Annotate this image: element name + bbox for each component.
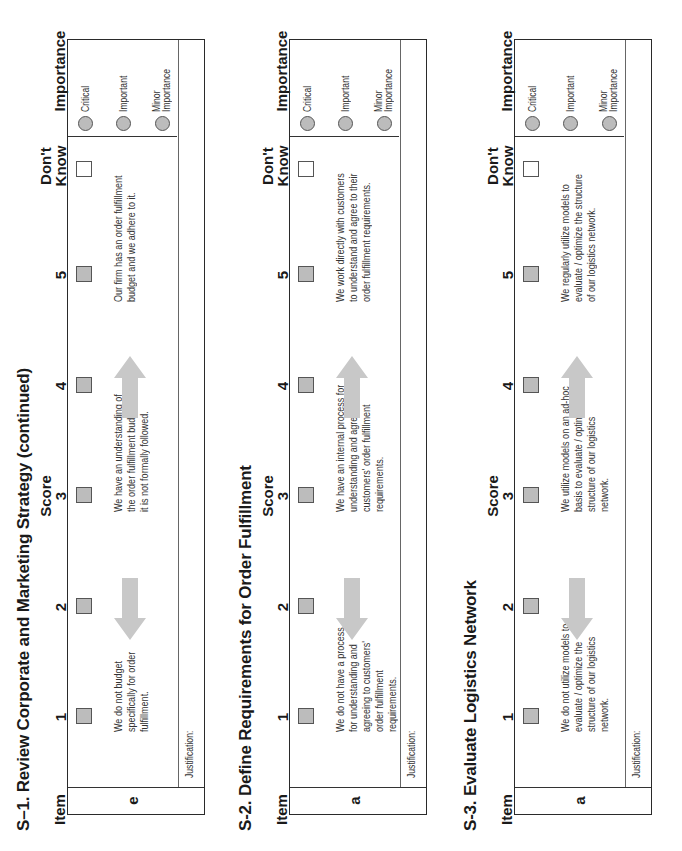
description-line: for understanding and (347, 627, 360, 732)
score-5-description: We regularly utilize models toevaluate /… (559, 174, 598, 302)
description-line: budget and we adhere to it. (125, 176, 138, 302)
description-line: specifically for order (125, 652, 138, 732)
dont-know-checkbox[interactable] (298, 161, 314, 177)
score-1-checkbox[interactable] (298, 708, 314, 724)
description-line: We regularly utilize models to (559, 174, 572, 302)
radio-circle-icon[interactable] (602, 116, 617, 131)
description-line: Our firm has an order fulfillment (112, 176, 125, 302)
description-line: evaluate / optimize the structure (572, 174, 585, 302)
section-title: S-3. Evaluate Logistics Network (461, 580, 481, 831)
dont-know-header: Don'tKnow (38, 141, 68, 191)
dont-know-checkbox[interactable] (523, 161, 539, 177)
importance-header: Importance (52, 21, 68, 121)
score-5-description: We work directly with customersto unders… (334, 173, 373, 302)
score-2-checkbox[interactable] (298, 598, 314, 614)
score-2-checkbox[interactable] (523, 598, 539, 614)
importance-important-option[interactable]: Important (338, 70, 353, 131)
arrow-left-icon (336, 578, 368, 640)
assessment-section-1: S–1. Review Corporate and Marketing Stra… (0, 0, 225, 851)
importance-critical-option[interactable]: Critical (525, 81, 540, 131)
description-line: to understand and agree to their (347, 173, 360, 302)
importance-critical-option[interactable]: Critical (78, 81, 93, 131)
importance-minor-option[interactable]: Minor Importance (152, 72, 172, 131)
score-1-checkbox[interactable] (76, 708, 92, 724)
assessment-section-3: S-3. Evaluate Logistics Network Item Sco… (447, 0, 672, 851)
justification-label: Justification: (406, 731, 417, 778)
score-4-checkbox[interactable] (298, 377, 314, 393)
item-header: Item (274, 785, 290, 825)
radio-circle-icon[interactable] (155, 116, 170, 131)
score-5-description: Our firm has an order fulfillmentbudget … (112, 176, 138, 302)
importance-header: Importance (499, 21, 515, 121)
description-line: network. (598, 624, 611, 732)
radio-circle-icon[interactable] (377, 116, 392, 131)
arrow-right-icon (561, 356, 593, 418)
item-letter: e (124, 787, 141, 814)
description-line: requirements. (386, 627, 399, 732)
dont-know-header: Don'tKnow (260, 141, 290, 191)
item-letter: a (346, 787, 363, 814)
importance-column-divider (290, 136, 399, 137)
description-line: We do not budget (112, 652, 125, 732)
importance-header: Importance (274, 21, 290, 121)
description-line: network. (598, 386, 611, 512)
item-header: Item (499, 785, 515, 825)
radio-circle-icon[interactable] (78, 116, 93, 131)
score-3-checkbox[interactable] (76, 487, 92, 503)
description-line: agreeing to customers' (360, 627, 373, 732)
arrow-right-icon (114, 356, 146, 418)
assessment-table: a We do not have a processfor understand… (289, 39, 427, 815)
assessment-section-2: S-2. Define Requirements for Order Fulfi… (222, 0, 447, 851)
score-1-description: We do not have a processfor understandin… (334, 627, 399, 732)
score-4-checkbox[interactable] (523, 377, 539, 393)
importance-column-divider (515, 136, 624, 137)
justification-label: Justification: (184, 731, 195, 778)
score-4-checkbox[interactable] (76, 377, 92, 393)
radio-circle-icon[interactable] (300, 116, 315, 131)
item-letter: a (571, 787, 588, 814)
justification-divider (178, 40, 179, 787)
score-5-checkbox[interactable] (523, 266, 539, 282)
justification-label: Justification: (631, 731, 642, 778)
arrow-left-icon (114, 578, 146, 640)
importance-minor-option[interactable]: Minor Importance (599, 72, 619, 131)
importance-minor-option[interactable]: Minor Importance (374, 72, 394, 131)
score-3-checkbox[interactable] (523, 487, 539, 503)
assessment-table: a We do not utilize models toevaluate / … (514, 39, 652, 815)
arrow-right-icon (336, 356, 368, 418)
score-1-description: We do not budgetspecifically for orderfu… (112, 652, 151, 732)
importance-important-option[interactable]: Important (116, 70, 131, 131)
section-title: S–1. Review Corporate and Marketing Stra… (14, 368, 34, 831)
radio-circle-icon[interactable] (338, 116, 353, 131)
description-line: order fulfillment requirements. (360, 173, 373, 302)
score-3-checkbox[interactable] (298, 487, 314, 503)
description-line: order fulfillment (373, 627, 386, 732)
score-1-checkbox[interactable] (523, 708, 539, 724)
section-title: S-2. Define Requirements for Order Fulfi… (236, 465, 256, 831)
arrow-left-icon (561, 578, 593, 640)
importance-column-divider (68, 136, 177, 137)
description-line: fulfillment. (138, 652, 151, 732)
dont-know-header: Don'tKnow (485, 141, 515, 191)
description-line: requirements. (373, 385, 386, 512)
score-5-checkbox[interactable] (298, 266, 314, 282)
dont-know-checkbox[interactable] (76, 161, 92, 177)
radio-circle-icon[interactable] (525, 116, 540, 131)
radio-circle-icon[interactable] (563, 116, 578, 131)
description-line: We work directly with customers (334, 173, 347, 302)
importance-critical-option[interactable]: Critical (300, 81, 315, 131)
description-line: We do not have a process (334, 627, 347, 732)
score-5-checkbox[interactable] (76, 266, 92, 282)
importance-important-option[interactable]: Important (563, 70, 578, 131)
justification-divider (625, 40, 626, 787)
description-line: of our logistics network. (585, 174, 598, 302)
assessment-table: e We do not budgetspecifically for order… (67, 39, 205, 815)
rotated-page: S–1. Review Corporate and Marketing Stra… (0, 0, 682, 851)
score-2-checkbox[interactable] (76, 598, 92, 614)
radio-circle-icon[interactable] (116, 116, 131, 131)
justification-divider (400, 40, 401, 787)
item-header: Item (52, 785, 68, 825)
